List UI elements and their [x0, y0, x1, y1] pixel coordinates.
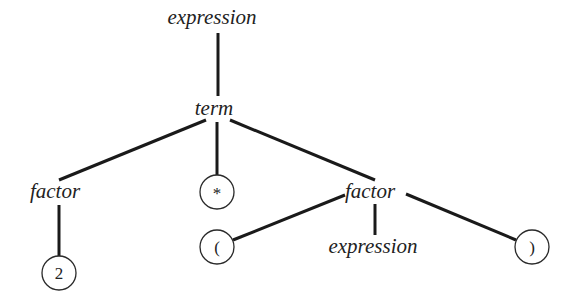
- leaf-star-text: *: [213, 184, 222, 203]
- leaf-two: 2: [42, 256, 76, 290]
- leaf-lparen: (: [200, 230, 234, 264]
- parse-tree-diagram: expression term factor factor expression…: [0, 0, 577, 303]
- leaf-star: *: [200, 175, 234, 209]
- node-factor-left: factor: [30, 179, 81, 203]
- edge-factor-right-rparen: [406, 194, 516, 240]
- node-factor-right: factor: [345, 179, 396, 203]
- leaf-rparen: ): [515, 230, 549, 264]
- leaf-lparen-text: (: [214, 238, 220, 257]
- node-inner-expression: expression: [328, 234, 417, 258]
- node-term: term: [195, 96, 234, 120]
- edge-term-factor-right: [230, 120, 375, 180]
- leaf-rparen-text: ): [529, 238, 535, 257]
- leaf-two-text: 2: [55, 264, 64, 283]
- node-root-expression: expression: [167, 5, 256, 29]
- edge-term-factor-left: [59, 120, 206, 180]
